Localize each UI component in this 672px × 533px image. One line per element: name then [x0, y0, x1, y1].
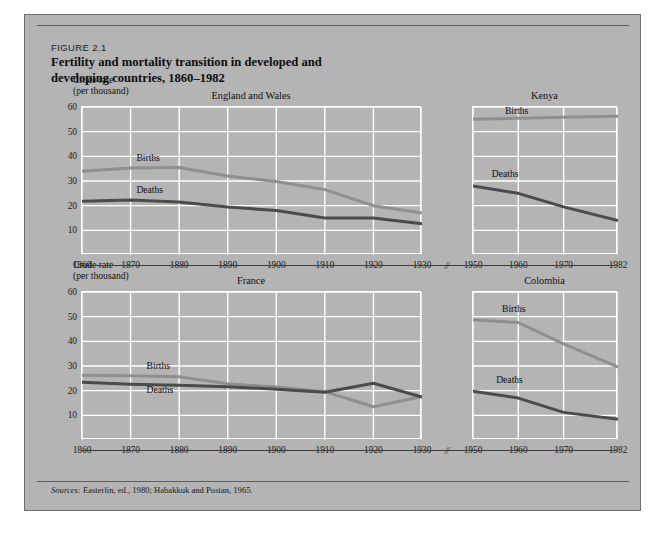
figure-title-line-1: Fertility and mortality transition in de…	[51, 55, 322, 69]
series-label-deaths: Deaths	[492, 168, 519, 179]
figure-number: FIGURE 2.1	[51, 42, 107, 53]
gridlines	[82, 107, 422, 255]
y-axis-tick-label: 50	[68, 127, 77, 137]
figure-panel: FIGURE 2.1 Fertility and mortality trans…	[24, 14, 641, 511]
chart-title: Colombia	[472, 275, 617, 286]
plot-area: 1950196019701982BirthsDeaths	[472, 291, 617, 439]
axis-break-icon-top: //	[444, 259, 448, 271]
series-label-deaths: Deaths	[496, 374, 523, 385]
plot-area: 1020304050601860187018801890190019101920…	[81, 106, 421, 254]
y-axis-tick-label: 30	[68, 361, 77, 371]
chart-panel-kenya: Kenya1950196019701982BirthsDeaths	[472, 106, 617, 254]
source-note-prefix: Sources:	[51, 485, 81, 495]
chart-title: Kenya	[472, 90, 617, 101]
series-line-deaths	[473, 186, 618, 221]
gridlines	[473, 107, 618, 255]
y-axis-tick-label: 10	[68, 225, 77, 235]
chart-title: England and Wales	[81, 90, 421, 101]
axis-break-icon-bottom: //	[444, 444, 448, 456]
y-axis-tick-label: 10	[68, 410, 77, 420]
plot-area: 1950196019701982BirthsDeaths	[472, 106, 617, 254]
x-axis-rule-bottom	[81, 450, 617, 451]
source-note-text: Easterlin, ed., 1980; Habakkuk and Posta…	[83, 485, 253, 495]
series-label-births: Births	[502, 303, 525, 314]
y-axis-tick-label: 40	[68, 336, 77, 346]
y-axis-tick-label: 40	[68, 151, 77, 161]
chart-panel-colombia: Colombia1950196019701982BirthsDeaths	[472, 291, 617, 439]
gridlines	[82, 292, 422, 440]
x-axis-rule-top	[81, 265, 617, 266]
series-label-deaths: Deaths	[136, 184, 163, 195]
y-axis-tick-label: 50	[68, 312, 77, 322]
y-axis-tick-label: 30	[68, 176, 77, 186]
y-axis-tick-label: 60	[68, 102, 77, 112]
y-axis-tick-label: 20	[68, 201, 77, 211]
series-label-births: Births	[147, 360, 170, 371]
figure-inner-frame: FIGURE 2.1 Fertility and mortality trans…	[37, 25, 629, 501]
series-label-births: Births	[505, 105, 528, 116]
series-line-births	[473, 116, 618, 119]
y-axis-caption-top-line-1: Crude rate	[73, 74, 113, 85]
series-label-births: Births	[136, 152, 159, 163]
chart-panel-france: France1020304050601860187018801890190019…	[81, 291, 421, 439]
chart-title: France	[81, 275, 421, 286]
series-label-deaths: Deaths	[147, 384, 174, 395]
source-divider	[37, 481, 629, 482]
y-axis-tick-label: 20	[68, 386, 77, 396]
source-note: Sources: Easterlin, ed., 1980; Habakkuk …	[51, 485, 253, 495]
plot-area: 1020304050601860187018801890190019101920…	[81, 291, 421, 439]
y-axis-tick-label: 60	[68, 287, 77, 297]
chart-panel-england-and-wales: England and Wales10203040506018601870188…	[81, 106, 421, 254]
series-line-births	[473, 320, 618, 368]
